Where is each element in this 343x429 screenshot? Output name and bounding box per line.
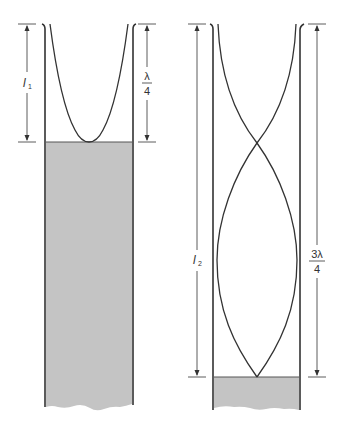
label-lambda: λ: [144, 70, 150, 82]
right-standing-wave-b: [217, 24, 296, 377]
right-water-column: [214, 377, 299, 410]
label-three-quarter-den: 4: [314, 263, 320, 275]
left-tube-right-wall: [133, 24, 136, 405]
right-standing-wave-a: [218, 24, 297, 377]
right-tube-left-wall: [210, 24, 213, 410]
label-three-lambda: 3λ: [311, 248, 323, 260]
right-tube-right-wall: [300, 24, 304, 410]
dimension-three-quarter-wavelength: 3λ 4: [308, 24, 326, 377]
label-l2-subscript: 2: [198, 260, 202, 267]
label-l2: l: [193, 253, 196, 267]
dimension-l2: l 2: [188, 24, 206, 377]
right-tube: [210, 24, 304, 410]
dimension-l1: l 1: [18, 24, 36, 142]
left-water-column: [46, 142, 132, 410]
left-tube: [42, 24, 136, 410]
resonance-tube-diagram: l 1 λ 4 l 2: [0, 0, 343, 429]
dimension-quarter-wavelength: λ 4: [138, 24, 156, 142]
left-standing-wave: [50, 24, 128, 142]
label-l1-subscript: 1: [28, 83, 32, 90]
label-quarter-den: 4: [144, 85, 150, 97]
left-tube-left-wall: [42, 24, 45, 407]
label-l1: l: [23, 76, 26, 90]
